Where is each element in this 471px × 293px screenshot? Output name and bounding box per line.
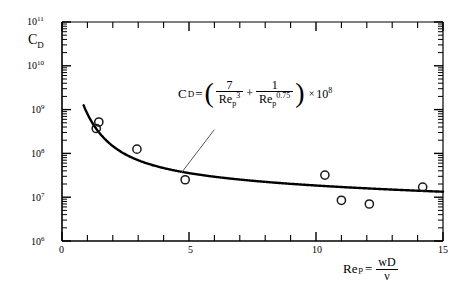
x-axis-title-sub: p — [358, 264, 363, 274]
equation-cd-sub: D — [188, 89, 195, 99]
figure-container: CD 1011 1010 109 108 107 106 0 5 10 15 R… — [0, 0, 471, 293]
x-axis-title: Rep = wD ν — [343, 256, 398, 282]
equation-term1-den-base: Re — [219, 92, 232, 106]
y-tick-label-1e11-base: 10 — [27, 16, 37, 27]
x-axis-title-equals: = — [365, 261, 372, 277]
y-tick-label-1e7: 107 — [31, 191, 45, 203]
y-tick-label-1e6-base: 10 — [31, 236, 41, 247]
equation-paren-open: ( — [205, 82, 214, 105]
equation-term1: 7 Rep3 — [216, 79, 243, 108]
equation-ten-exp: 8 — [328, 86, 332, 95]
x-axis-title-denominator: ν — [376, 270, 397, 283]
equation-plus: + — [246, 86, 253, 101]
y-tick-label-1e8-exp: 8 — [41, 147, 45, 155]
y-axis-title: CD — [28, 32, 44, 50]
y-tick-label-1e9: 109 — [31, 103, 45, 115]
y-axis-title-base: C — [28, 32, 37, 47]
y-tick-label-1e6: 106 — [31, 235, 45, 247]
equation-power-of-ten: 108 — [316, 86, 332, 102]
equation-term1-den-sup: 3 — [236, 91, 240, 100]
x-tick-label-0: 0 — [59, 244, 64, 255]
equation-term2: 1 Rep0.75 — [256, 79, 293, 108]
y-tick-label-1e9-exp: 9 — [41, 103, 45, 111]
x-axis-title-base: Re — [343, 261, 357, 277]
equation-term2-den-sub: p — [272, 99, 276, 108]
x-axis-title-numerator: wD — [376, 256, 397, 270]
y-tick-label-1e7-base: 10 — [31, 192, 41, 203]
x-tick-label-5: 5 — [188, 244, 193, 255]
y-axis-title-sub: D — [37, 40, 44, 50]
equation-cd: C — [178, 86, 187, 102]
equation-term2-den-sup: 0.75 — [276, 91, 290, 100]
x-tick-label-10: 10 — [312, 244, 322, 255]
y-tick-label-1e8: 108 — [31, 147, 45, 159]
chart-background — [0, 0, 471, 293]
y-tick-label-1e9-base: 10 — [31, 104, 41, 115]
equation-paren-close: ) — [295, 82, 304, 105]
equation-term1-den-sub: p — [232, 99, 236, 108]
y-tick-label-1e10: 1010 — [27, 59, 44, 71]
equation-annotation: CD = ( 7 Rep3 + 1 Rep0.75 ) × 108 — [178, 79, 332, 108]
y-tick-label-1e10-exp: 10 — [37, 59, 44, 67]
y-tick-label-1e7-exp: 7 — [41, 191, 45, 199]
x-tick-label-15: 15 — [438, 244, 448, 255]
y-tick-label-1e8-base: 10 — [31, 148, 41, 159]
equation-term2-den-base: Re — [259, 92, 272, 106]
equation-equals: = — [195, 86, 202, 102]
equation-term1-denominator: Rep3 — [216, 92, 243, 108]
equation-times: × — [309, 88, 315, 99]
equation-term2-denominator: Rep0.75 — [256, 92, 293, 108]
chart-svg — [0, 0, 471, 293]
x-axis-title-fraction: wD ν — [376, 256, 397, 282]
y-tick-label-1e11-exp: 11 — [37, 15, 44, 23]
y-tick-label-1e10-base: 10 — [27, 60, 37, 71]
equation-ten: 10 — [316, 87, 328, 101]
y-tick-label-1e6-exp: 6 — [41, 235, 45, 243]
y-tick-label-1e11: 1011 — [27, 15, 44, 27]
